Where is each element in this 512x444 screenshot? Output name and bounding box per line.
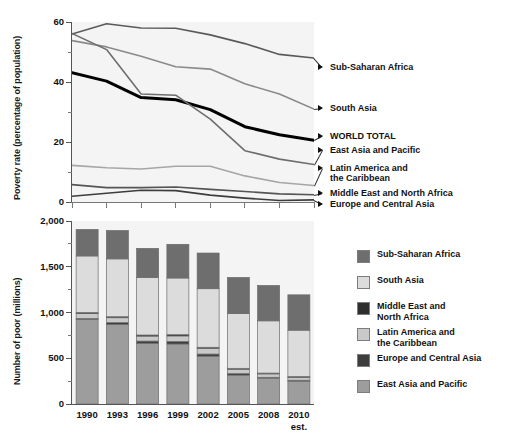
annotation-arrow-icon [318,64,323,70]
annotation-arrow-icon [318,147,323,153]
legend-swatch-icon [357,250,370,263]
top-y-tick-label: 0 [40,196,64,207]
bar-segment [288,330,310,376]
top-y-tick-label: 60 [40,16,64,27]
bottom-x-axis-line [71,404,314,405]
bar-segment [197,253,219,289]
legend-swatch-icon [357,380,370,393]
bottom-y-tick-label: 2,000 [28,215,64,226]
bar-segment [197,356,219,404]
annot-latin-america-line1: Latin America and [330,163,408,174]
bottom-y-axis-title: Number of poor (millions) [12,235,22,385]
annot-latin-america-line2: the Caribbean [330,173,390,184]
legend-swatch-icon [357,354,370,367]
annot-sub-saharan-africa: Sub-Saharan Africa [330,62,413,73]
annotation-arrow-icon [318,105,323,111]
bar-segment [106,318,128,323]
bar-segment [227,375,249,404]
poverty-rate-line-chart: Poverty rate (percentage of population) … [0,0,512,215]
top-plot-area [72,22,314,202]
annot-middle-east-and-north-africa: Middle East and North Africa [330,188,453,199]
bar-segment [167,336,189,341]
bottom-plot-area [72,221,314,404]
legend-label: East Asia and Pacific [377,379,467,390]
top-lines-svg [72,22,314,202]
bottom-y-tick-label: 500 [28,352,64,363]
legend-label: Latin America and the Caribbean [377,327,455,348]
bar-segment [258,378,280,404]
legend-label: Europe and Central Asia [377,353,481,364]
bar-segment [137,248,159,277]
legend-item[interactable]: Europe and Central Asia [357,353,509,374]
annot-south-asia: South Asia [330,103,377,114]
bar-segment [76,256,98,312]
bar-segment [197,289,219,348]
bottom-x-tick-note: est. [275,421,323,432]
top-y-tick-label: 20 [40,136,64,147]
bar-segment [258,374,280,377]
bar-segment [106,324,128,404]
bar-segment [288,377,310,380]
top-x-tick [106,202,107,208]
annot-europe-and-central-asia: Europe and Central Asia [330,199,434,210]
bar-segment [258,286,280,321]
bottom-y-tick-label: 1,000 [28,307,64,318]
bar-chart-legend: Sub-Saharan AfricaSouth AsiaMiddle East … [357,249,509,405]
legend-item[interactable]: Latin America and the Caribbean [357,327,509,348]
bar-segment [288,295,310,330]
annotation-arrow-icon [318,133,323,139]
top-x-axis-line [71,202,314,203]
annotation-arrow-icon [318,165,323,171]
bar-segment [167,344,189,404]
legend-item[interactable]: East Asia and Pacific [357,379,509,400]
top-x-tick [314,202,315,208]
bottom-bars-svg [72,221,314,404]
bar-segment [76,314,98,319]
bar-segment [258,321,280,373]
legend-item[interactable]: Sub-Saharan Africa [357,249,509,270]
legend-item[interactable]: Middle East and North Africa [357,301,509,322]
top-x-tick [279,202,280,208]
top-x-tick [210,202,211,208]
bar-segment [227,277,249,313]
bar-segment [137,277,159,335]
legend-swatch-icon [357,276,370,289]
line-series-latin-america-and-the-caribbean [72,165,314,185]
bar-segment [227,369,249,373]
figure-root: Poverty rate (percentage of population) … [0,0,512,444]
annotation-arrow-icon [318,190,323,196]
bar-segment [167,341,189,344]
bar-segment [137,343,159,404]
top-x-tick [141,202,142,208]
bar-segment [106,231,128,259]
bar-segment [76,229,98,256]
annot-world-total: WORLD TOTAL [330,131,396,142]
bar-segment [167,278,189,335]
legend-item[interactable]: South Asia [357,275,509,296]
bar-segment [167,244,189,278]
legend-label: Sub-Saharan Africa [377,249,460,260]
top-y-tick-label: 40 [40,76,64,87]
bar-segment [288,381,310,404]
legend-swatch-icon [357,302,370,315]
legend-label: Middle East and North Africa [377,301,446,322]
bottom-y-tick-label: 0 [28,398,64,409]
bar-segment [197,348,219,354]
annotation-arrow-icon [318,201,323,207]
bar-segment [106,259,128,317]
top-x-tick [72,202,73,208]
bar-segment [76,319,98,404]
bottom-y-tick-label: 1,500 [28,261,64,272]
legend-label: South Asia [377,275,424,286]
top-x-tick [244,202,245,208]
top-y-axis-title: Poverty rate (percentage of population) [12,15,22,200]
line-series-europe-and-central-asia [72,190,314,200]
legend-swatch-icon [357,328,370,341]
bar-segment [227,314,249,369]
bottom-x-tick-label: 2010 [275,409,323,420]
annot-east-asia-and-pacific: East Asia and Pacific [330,145,420,156]
top-x-tick [175,202,176,208]
bar-segment [137,336,159,341]
